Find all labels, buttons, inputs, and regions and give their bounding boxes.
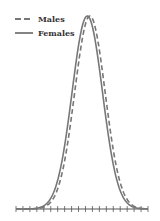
legend-label-males: Males — [38, 14, 65, 24]
legend-label-females: Females — [38, 28, 75, 38]
legend: Males Females — [15, 14, 75, 38]
distribution-chart: Males Females — [0, 0, 160, 221]
males-curve — [16, 16, 148, 209]
females-curve — [16, 16, 148, 209]
